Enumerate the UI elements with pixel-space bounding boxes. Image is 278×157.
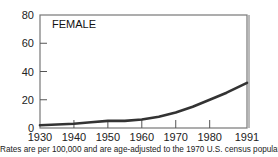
plot-frame [40, 15, 249, 128]
y-tick-label: 40 [22, 66, 34, 78]
y-tick-label: 80 [22, 9, 34, 21]
x-tick-label: 1970 [163, 131, 187, 143]
y-axis: 020406080 [22, 9, 47, 134]
footnote: Rates are per 100,000 and are age-adjust… [0, 145, 278, 154]
x-tick-label: 1991 [235, 131, 259, 143]
x-tick-label: 1960 [130, 131, 154, 143]
chart-title: FEMALE [52, 18, 96, 30]
y-tick-label: 60 [22, 37, 34, 49]
x-tick-label: 1980 [197, 131, 221, 143]
y-tick-label: 20 [22, 94, 34, 106]
female-rate-line [40, 83, 247, 125]
x-tick-label: 1930 [28, 131, 52, 143]
line-chart: 020406080 1930194019501960197019801991 F… [0, 0, 278, 145]
x-tick-label: 1940 [62, 131, 86, 143]
x-tick-label: 1950 [96, 131, 120, 143]
